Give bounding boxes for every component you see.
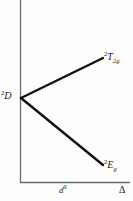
configuration-label: d9 [59, 186, 66, 195]
orgel-diagram-figure: 2D 2T2g 2Eg d9 Δ [0, 0, 133, 201]
delta-axis-label: Δ [119, 185, 125, 195]
ground-term-label: 2D [1, 91, 12, 101]
level-line-2t2g [21, 58, 103, 98]
lower-state-label: 2Eg [104, 160, 117, 170]
lower-state-subscript: g [113, 165, 116, 172]
upper-state-label: 2T2g [104, 52, 119, 62]
configuration-electron-count: 9 [64, 184, 67, 190]
ground-term-symbol: D [4, 90, 11, 101]
level-line-2eg [21, 98, 103, 165]
upper-state-subscript: 2g [113, 57, 120, 64]
